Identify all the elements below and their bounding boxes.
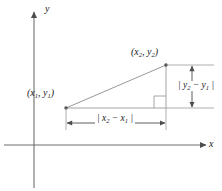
point-2-label: (x2, y2) [131, 47, 158, 57]
right-angle-icon [154, 96, 166, 108]
distance-formula-figure: (x1, y1) (x2, y2) y x | x2 − x1 | | y2 −… [0, 0, 222, 191]
x-axis-label: x [209, 139, 213, 149]
point-1-label: (x1, y1) [27, 88, 54, 98]
vertical-distance-label: | y2 − y1 | [176, 81, 216, 91]
horizontal-distance-label: | x2 − x1 | [95, 114, 135, 124]
hypotenuse [66, 65, 166, 108]
y-axis-label: y [45, 4, 49, 14]
